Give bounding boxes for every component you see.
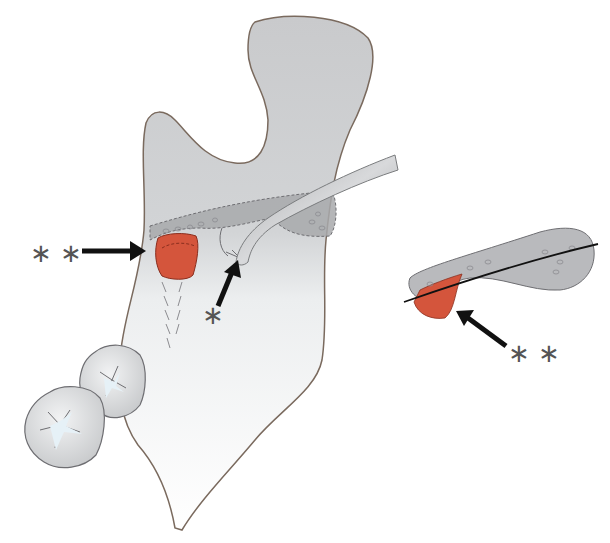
ramus-body (119, 16, 372, 530)
lingula-highlight (156, 234, 198, 280)
arrow-left-to-lingula (82, 241, 146, 261)
mandible-diagram: ∗ ∗ ∗ ∗ ∗ (0, 0, 610, 543)
label-double-star-left: ∗ ∗ (30, 238, 82, 268)
molar-lower (25, 387, 105, 468)
label-double-star-inset: ∗ ∗ (508, 338, 560, 368)
label-single-star: ∗ (202, 300, 224, 330)
arrow-inset (456, 310, 506, 346)
